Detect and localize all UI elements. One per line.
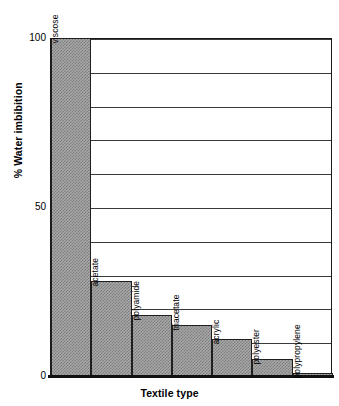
y-tick-label-100: 100	[18, 33, 46, 43]
bar-label-triacetate: triacetate	[171, 295, 180, 331]
bar-label-polyamide: polyamide	[131, 281, 140, 321]
bar-triacetate	[172, 325, 212, 376]
bar-label-acrylic: acrylic	[212, 320, 221, 345]
bar-label-polyester: polyester	[252, 329, 261, 364]
bar-label-viscose: viscose	[51, 14, 60, 43]
y-tick-label-0: 0	[18, 371, 46, 381]
bar-acetate	[91, 281, 131, 376]
y-axis-tick-labels: 100 50 0	[12, 0, 46, 406]
bar-series	[51, 39, 331, 376]
bar-label-acetate: acetate	[91, 258, 100, 287]
y-tick-label-50: 50	[18, 202, 46, 212]
bar-chart-figure: % Water imbibition 100 50 0 viscoseaceta…	[0, 0, 339, 406]
bar-label-polypropylene: polypropylene	[292, 324, 301, 378]
bar-viscose	[51, 38, 91, 376]
plot-area	[50, 38, 332, 376]
bar-polyamide	[132, 315, 172, 376]
x-axis-title: Textile type	[0, 387, 339, 399]
